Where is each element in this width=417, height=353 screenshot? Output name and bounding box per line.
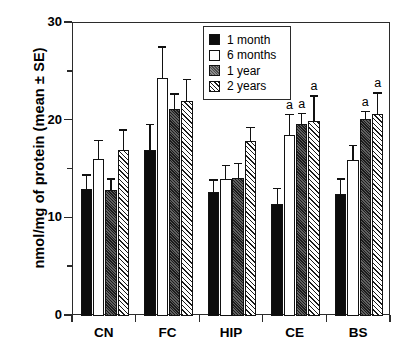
- error-bar-cap: [170, 93, 178, 94]
- x-tick: [326, 315, 327, 322]
- error-bar-stem: [98, 140, 99, 159]
- error-bar-stem: [86, 174, 87, 189]
- significance-letter: a: [294, 97, 310, 111]
- error-bar-cap: [82, 174, 90, 175]
- chart-legend: 1 month 6 months 1 year 2 years: [203, 26, 291, 100]
- error-bar-stem: [123, 129, 124, 150]
- bar-bs-2-years: [372, 114, 383, 316]
- bar-fc-6-months: [157, 78, 168, 316]
- error-bar-stem: [277, 188, 278, 204]
- error-bar-cap: [310, 95, 318, 96]
- bar-fc-1-year: [169, 109, 180, 316]
- error-bar-cap: [246, 127, 254, 128]
- y-tick-major: [64, 119, 72, 120]
- x-tick-label-bs: BS: [328, 325, 388, 340]
- significance-letter: a: [306, 79, 322, 93]
- bar-hip-2-years: [245, 141, 256, 316]
- legend-label-1-year: 1 year: [227, 64, 260, 78]
- error-bar-stem: [174, 93, 175, 109]
- bar-bs-1-month: [335, 194, 346, 316]
- error-bar-cap: [107, 178, 115, 179]
- legend-label-2-years: 2 years: [227, 79, 266, 93]
- legend-item-6-months: 6 months: [209, 48, 284, 64]
- significance-letter: a: [357, 95, 373, 109]
- y-tick-label: 10: [22, 209, 62, 224]
- error-bar-stem: [352, 145, 353, 160]
- error-bar-stem: [301, 113, 302, 124]
- bar-ce-1-year: [296, 124, 307, 316]
- x-tick-label-fc: FC: [137, 325, 197, 340]
- y-axis-title: nmol/mg of protein (mean ± SE): [31, 23, 47, 293]
- error-bar-stem: [162, 46, 163, 77]
- error-bar-stem: [238, 163, 239, 179]
- error-bar-cap: [298, 113, 306, 114]
- bar-bs-6-months: [347, 160, 358, 316]
- x-tick: [262, 315, 263, 322]
- error-bar-stem: [110, 178, 111, 190]
- error-bar-stem: [250, 127, 251, 142]
- significance-letter: a: [370, 76, 386, 90]
- error-bar-cap: [285, 114, 293, 115]
- bar-cn-1-month: [81, 189, 92, 316]
- error-bar-stem: [289, 114, 290, 135]
- bar-cn-1-year: [105, 190, 116, 316]
- error-bar-stem: [213, 179, 214, 192]
- bar-cn-6-months: [93, 159, 104, 316]
- error-bar-cap: [119, 129, 127, 130]
- y-tick-label: 30: [22, 14, 62, 29]
- y-tick-label: 0: [22, 307, 62, 322]
- bar-hip-1-year: [232, 178, 243, 316]
- error-bar-cap: [158, 46, 166, 47]
- legend-item-2-years: 2 years: [209, 79, 284, 95]
- error-bar-cap: [209, 179, 217, 180]
- error-bar-cap: [234, 163, 242, 164]
- x-tick: [135, 315, 136, 322]
- legend-label-1-month: 1 month: [227, 33, 270, 47]
- legend-swatch-2-years: [209, 81, 220, 92]
- legend-swatch-1-year: [209, 65, 220, 76]
- error-bar-cap: [349, 145, 357, 146]
- x-tick-label-ce: CE: [265, 325, 325, 340]
- error-bar-stem: [186, 79, 187, 101]
- error-bar-cap: [222, 165, 230, 166]
- x-tick: [199, 315, 200, 322]
- bar-ce-6-months: [284, 135, 295, 316]
- error-bar-cap: [273, 188, 281, 189]
- legend-item-1-month: 1 month: [209, 32, 284, 48]
- error-bar-stem: [377, 92, 378, 113]
- legend-swatch-1-month: [209, 34, 220, 45]
- bar-bs-1-year: [360, 119, 371, 316]
- error-bar-cap: [361, 111, 369, 112]
- legend-item-1-year: 1 year: [209, 63, 284, 79]
- error-bar-stem: [340, 178, 341, 194]
- x-tick-label-cn: CN: [74, 325, 134, 340]
- x-tick: [71, 315, 72, 322]
- error-bar-cap: [337, 178, 345, 179]
- error-bar-stem: [313, 95, 314, 120]
- bar-hip-1-month: [208, 192, 219, 316]
- error-bar-cap: [94, 140, 102, 141]
- bar-chart: nmol/mg of protein (mean ± SE) 0102030 a…: [0, 0, 417, 353]
- bar-fc-1-month: [144, 150, 155, 316]
- y-tick-major: [64, 21, 72, 22]
- error-bar-stem: [225, 165, 226, 180]
- legend-label-6-months: 6 months: [227, 48, 276, 62]
- y-tick-major: [64, 217, 72, 218]
- error-bar-cap: [373, 92, 381, 93]
- error-bar-cap: [146, 124, 154, 125]
- bar-fc-2-years: [181, 101, 192, 316]
- bar-hip-6-months: [220, 179, 231, 316]
- y-tick-label: 20: [22, 112, 62, 127]
- legend-swatch-6-months: [209, 50, 220, 61]
- bar-cn-2-years: [118, 150, 129, 316]
- x-tick-label-hip: HIP: [201, 325, 261, 340]
- bar-ce-1-month: [271, 204, 282, 316]
- bar-ce-2-years: [308, 121, 319, 316]
- error-bar-stem: [149, 124, 150, 150]
- x-tick: [389, 315, 390, 322]
- error-bar-cap: [183, 79, 191, 80]
